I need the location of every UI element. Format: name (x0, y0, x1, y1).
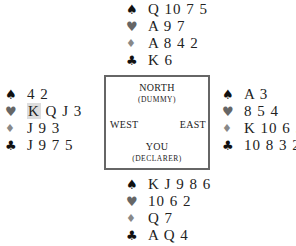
diamond-icon: ♦ (126, 35, 148, 52)
south-hand: ♠K J 9 8 6 ♥10 6 2 ♦Q 7 ♣A Q 4 (126, 176, 211, 244)
north-sub-label: (DUMMY) (106, 95, 208, 104)
south-hearts: ♥10 6 2 (126, 193, 211, 210)
spade-icon: ♠ (222, 86, 244, 103)
north-hearts: ♥A 9 7 (126, 18, 208, 35)
spade-icon: ♠ (5, 86, 27, 103)
club-icon: ♣ (126, 227, 148, 244)
east-hearts: ♥8 5 4 (222, 103, 296, 120)
east-clubs: ♣10 8 3 2 (222, 137, 296, 154)
heart-icon: ♥ (5, 103, 27, 120)
diamond-icon: ♦ (126, 210, 148, 227)
spade-icon: ♠ (126, 176, 148, 193)
east-label: EAST (180, 119, 206, 130)
club-icon: ♣ (222, 137, 244, 154)
club-icon: ♣ (126, 52, 148, 69)
west-diamonds: ♦J 9 3 (5, 120, 82, 137)
north-spades: ♠Q 10 7 5 (126, 1, 208, 18)
club-icon: ♣ (5, 137, 27, 154)
west-hand: ♠4 2 ♥K Q J 3 ♦J 9 3 ♣J 9 7 5 (5, 86, 82, 154)
south-sub-label: (DECLARER) (106, 154, 208, 163)
west-clubs: ♣J 9 7 5 (5, 137, 82, 154)
west-hearts: ♥K Q J 3 (5, 103, 82, 120)
diamond-icon: ♦ (222, 120, 244, 137)
north-clubs: ♣K 6 (126, 52, 208, 69)
south-spades: ♠K J 9 8 6 (126, 176, 211, 193)
west-label: WEST (110, 119, 138, 130)
east-hand: ♠A 3 ♥8 5 4 ♦K 10 6 5 ♣10 8 3 2 (222, 86, 296, 154)
east-spades: ♠A 3 (222, 86, 296, 103)
south-label: YOU (106, 141, 208, 152)
west-spades: ♠4 2 (5, 86, 82, 103)
south-clubs: ♣A Q 4 (126, 227, 211, 244)
highlighted-card[interactable]: K (27, 103, 41, 119)
diamond-icon: ♦ (5, 120, 27, 137)
north-hand: ♠Q 10 7 5 ♥A 9 7 ♦A 8 4 2 ♣K 6 (126, 1, 208, 69)
north-label: NORTH (106, 82, 208, 93)
heart-icon: ♥ (222, 103, 244, 120)
east-diamonds: ♦K 10 6 5 (222, 120, 296, 137)
south-diamonds: ♦Q 7 (126, 210, 211, 227)
heart-icon: ♥ (126, 18, 148, 35)
heart-icon: ♥ (126, 193, 148, 210)
north-diamonds: ♦A 8 4 2 (126, 35, 208, 52)
spade-icon: ♠ (126, 1, 148, 18)
table-diagram: NORTH (DUMMY) WEST EAST YOU (DECLARER) (104, 75, 210, 170)
